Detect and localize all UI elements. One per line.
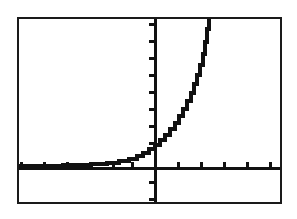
calculator-screen-frame <box>17 17 282 204</box>
screenshot-root <box>0 0 297 219</box>
graph-svg <box>19 19 280 202</box>
graph-plot-area <box>19 19 280 202</box>
exponential-curve <box>19 19 209 166</box>
